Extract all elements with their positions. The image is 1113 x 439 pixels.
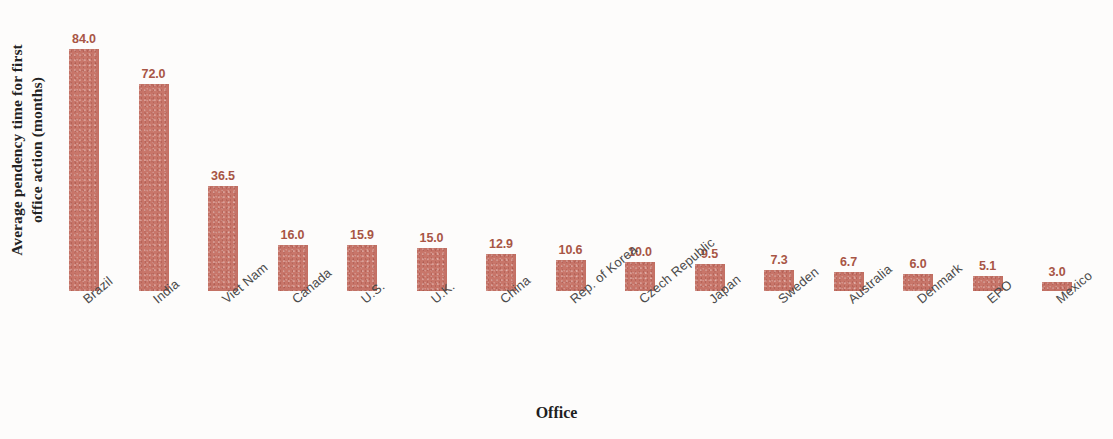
bar-group[interactable]: 12.9 xyxy=(486,0,516,291)
y-axis-title-line-2: office action (months) xyxy=(27,77,47,223)
bar[interactable] xyxy=(208,186,238,291)
category-label: Japan xyxy=(706,295,716,306)
bar-group[interactable]: 10.6 xyxy=(556,0,586,291)
bar-value-label: 10.6 xyxy=(540,243,602,257)
category-label: Sweden xyxy=(775,295,785,306)
bar-value-label: 7.3 xyxy=(748,253,810,267)
bar-value-label: 5.1 xyxy=(957,259,1019,273)
category-axis: BrazilIndiaViet NamCanadaU.S.U.K.ChinaRe… xyxy=(55,291,1113,396)
category-label: Australia xyxy=(845,295,855,306)
category-label: Denmark xyxy=(914,295,924,306)
bar-value-label: 84.0 xyxy=(53,32,115,46)
category-label: U.K. xyxy=(428,295,438,306)
bar-group[interactable]: 84.0 xyxy=(69,0,99,291)
bar-value-label: 36.5 xyxy=(192,169,254,183)
bar-chart: Average pendency time for first office a… xyxy=(0,0,1113,439)
plot-area: 84.072.036.516.015.915.012.910.610.09.57… xyxy=(55,0,1113,291)
bar-value-label: 16.0 xyxy=(262,228,324,242)
y-axis-title-line-1: Average pendency time for first xyxy=(7,44,27,256)
x-axis-title: Office xyxy=(0,404,1113,422)
bar[interactable] xyxy=(69,49,99,291)
bar-group[interactable]: 6.0 xyxy=(903,0,933,291)
category-label: EPO xyxy=(984,295,994,306)
category-label: U.S. xyxy=(358,295,368,306)
bar-group[interactable]: 72.0 xyxy=(139,0,169,291)
bar-value-label: 12.9 xyxy=(470,237,532,251)
bar-group[interactable]: 15.9 xyxy=(347,0,377,291)
category-label: Rep. of Korea xyxy=(567,295,577,306)
bar-value-label: 72.0 xyxy=(123,67,185,81)
category-label: Czech Republic xyxy=(636,295,646,306)
bar-group[interactable]: 16.0 xyxy=(278,0,308,291)
category-label: China xyxy=(497,295,507,306)
bar-value-label: 6.7 xyxy=(818,255,880,269)
bar-value-label: 6.0 xyxy=(887,257,949,271)
bar-group[interactable]: 36.5 xyxy=(208,0,238,291)
bar-value-label: 15.0 xyxy=(401,231,463,245)
bar[interactable] xyxy=(139,84,169,291)
category-label: India xyxy=(150,295,160,306)
bar-group[interactable]: 3.0 xyxy=(1042,0,1072,291)
bar-value-label: 15.9 xyxy=(331,228,393,242)
bar-group[interactable]: 7.3 xyxy=(764,0,794,291)
category-label: Canada xyxy=(289,295,299,306)
bar-group[interactable]: 15.0 xyxy=(417,0,447,291)
category-label: Viet Nam xyxy=(219,295,229,306)
category-label: Mexico xyxy=(1053,295,1063,306)
category-label: Brazil xyxy=(80,295,90,306)
y-axis-title: Average pendency time for first office a… xyxy=(5,5,49,295)
bar-group[interactable]: 6.7 xyxy=(834,0,864,291)
bar-group[interactable]: 5.1 xyxy=(973,0,1003,291)
